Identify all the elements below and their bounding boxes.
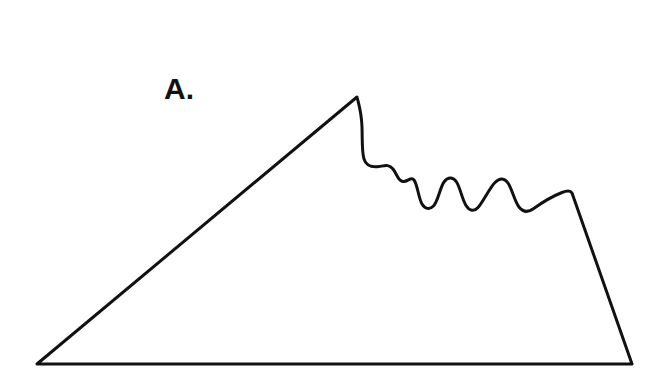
- panel-label: A.: [164, 74, 194, 104]
- mountain-outline-figure: [0, 0, 661, 374]
- figure-panel: A.: [0, 0, 661, 374]
- figure-background: [0, 0, 661, 374]
